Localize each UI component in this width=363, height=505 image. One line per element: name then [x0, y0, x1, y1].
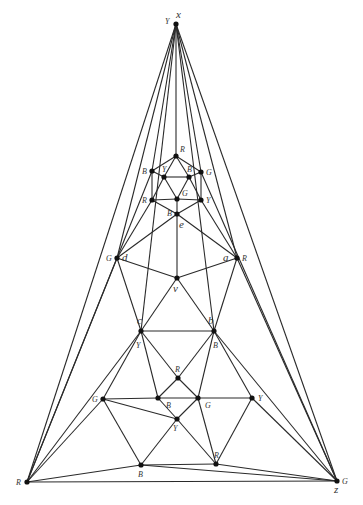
- color-label-h3: G: [206, 168, 212, 177]
- edge-x-d: [117, 24, 176, 258]
- vertex-h6: [149, 197, 154, 202]
- edge-h6-e: [152, 200, 177, 214]
- graph-diagram: YxRGzRBGYBRGYBeGdRavYcBbRGBGYYBR: [0, 0, 363, 505]
- vertex-h8: [198, 197, 203, 202]
- vertex-r1: [213, 461, 218, 466]
- edge-y1-b1: [141, 419, 177, 465]
- vertex-name-z: z: [333, 483, 339, 495]
- edge-m1-g2: [158, 378, 178, 398]
- color-label-b1: B: [138, 470, 143, 479]
- vertex-h5: [186, 174, 191, 179]
- vertex-x: [173, 21, 178, 26]
- edge-a-b: [214, 258, 237, 331]
- edge-h8-a: [201, 200, 237, 258]
- edge-x-Rc: [27, 24, 176, 482]
- label-layer: YxRGzRBGYBRGYBeGdRavYcBbRGBGYYBR: [15, 8, 348, 495]
- color-label-m1: R: [174, 365, 180, 374]
- vertex-name-a: a: [223, 251, 229, 263]
- edge-Rc-h2: [27, 171, 152, 482]
- edge-g3-y1: [177, 398, 198, 419]
- vertex-name-d: d: [122, 251, 128, 263]
- vertex-name-c: c: [137, 314, 142, 326]
- color-label-h2: B: [142, 167, 147, 176]
- vertex-g1: [100, 396, 105, 401]
- vertex-name-x: x: [175, 8, 181, 20]
- edge-g1-b1: [103, 399, 141, 465]
- color-label-d: G: [106, 254, 112, 263]
- color-label-c: Y: [136, 341, 142, 350]
- edge-g4-r1: [216, 398, 252, 464]
- color-label-y1: Y: [173, 424, 179, 433]
- vertex-m1: [175, 375, 180, 380]
- vertex-name-v: v: [173, 282, 178, 294]
- color-label-h5: B: [187, 165, 192, 174]
- color-label-b: B: [213, 341, 218, 350]
- color-label-h6: R: [141, 196, 147, 205]
- vertex-b1: [138, 462, 143, 467]
- edge-x-h2: [152, 24, 176, 171]
- edge-z-g4: [252, 398, 337, 481]
- edge-z-h3: [201, 172, 337, 481]
- color-label-g3: G: [205, 401, 211, 410]
- color-label-h1: R: [179, 145, 185, 154]
- edge-Rc-g1: [27, 399, 103, 482]
- vertex-name-b: b: [208, 314, 214, 326]
- color-label-e: B: [167, 209, 172, 218]
- color-label-x: Y: [165, 17, 171, 26]
- vertex-Rc: [24, 479, 29, 484]
- edge-z-b: [214, 331, 337, 481]
- vertex-b: [211, 328, 216, 333]
- vertex-h3: [198, 169, 203, 174]
- vertex-g4: [249, 395, 254, 400]
- vertex-name-e: e: [179, 218, 184, 230]
- color-label-g2: B: [166, 401, 171, 410]
- vertex-e: [174, 211, 179, 216]
- color-label-h8: Y: [206, 196, 212, 205]
- edge-layer: [27, 24, 337, 482]
- edge-x-a: [176, 24, 237, 258]
- vertex-c: [138, 328, 143, 333]
- edge-Rc-c: [27, 331, 141, 482]
- vertex-h1: [173, 153, 178, 158]
- vertex-a: [234, 255, 239, 260]
- edge-g1-g2: [103, 398, 158, 399]
- vertex-y1: [174, 416, 179, 421]
- edge-Rc-b1: [27, 465, 141, 482]
- edge-b1-r1: [141, 464, 216, 465]
- vertex-g2: [155, 395, 160, 400]
- vertex-h7: [174, 196, 179, 201]
- vertex-g3: [195, 395, 200, 400]
- vertex-d: [114, 255, 119, 260]
- color-label-Rc: R: [15, 478, 21, 487]
- color-label-g4: Y: [258, 394, 264, 403]
- color-label-r1: R: [213, 451, 219, 460]
- color-label-g1: G: [92, 395, 98, 404]
- vertex-layer: [24, 21, 339, 484]
- vertex-h2: [149, 168, 154, 173]
- color-label-h7: G: [182, 189, 188, 198]
- edge-h8-e: [177, 200, 201, 214]
- edge-b-g4: [214, 331, 252, 398]
- edge-h6-d: [117, 200, 152, 258]
- edge-x-z: [176, 24, 337, 481]
- color-label-z: G: [342, 477, 348, 486]
- vertex-h4: [161, 174, 166, 179]
- color-label-a: R: [241, 254, 247, 263]
- edge-m1-g3: [178, 378, 198, 398]
- edge-Rc-z: [27, 481, 337, 482]
- edge-h4-h7: [164, 177, 177, 199]
- vertex-v: [174, 275, 179, 280]
